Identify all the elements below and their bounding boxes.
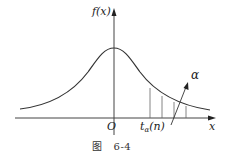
alpha-pointer — [171, 87, 186, 125]
tail-area-label: α — [191, 69, 199, 81]
density-curve — [20, 48, 210, 110]
origin-label: O — [107, 121, 116, 132]
figure-caption: 图 6-4 — [92, 142, 131, 152]
x-axis-label: x — [209, 121, 215, 132]
alpha-arrow-icon — [184, 82, 189, 90]
caption-number: 6-4 — [114, 141, 132, 152]
quantile-label-arg: (n) — [149, 120, 165, 133]
quantile-label: tα(n) — [140, 121, 165, 134]
caption-prefix: 图 — [92, 141, 103, 152]
t-distribution-figure: f(x) O tα(n) x α 图 6-4 — [0, 0, 229, 168]
y-axis-label: f(x) — [92, 6, 111, 17]
y-axis-arrow-icon — [112, 8, 117, 16]
